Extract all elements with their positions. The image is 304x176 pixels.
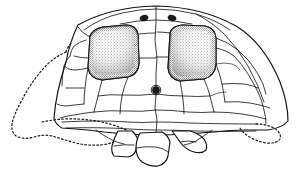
occipital-plates-group [96,130,212,166]
pineal-foramen-icon [152,86,159,93]
skull-illustration [0,0,304,176]
occipital-plate-left [112,131,138,157]
occipital-plate-right [172,131,207,153]
occipital-condyle-center [136,132,170,166]
figure-root: Fossil skull roof, dorsal view dashed ou… [0,0,304,176]
